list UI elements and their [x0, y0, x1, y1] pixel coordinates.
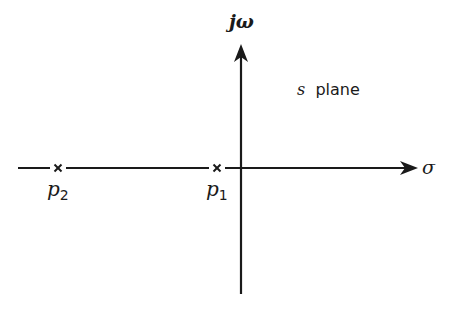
plane-label-variable: s	[297, 80, 305, 99]
s-plane-diagram	[0, 0, 453, 314]
pole-p1-label: p1	[206, 177, 228, 201]
pole-p2-name: p	[47, 177, 60, 201]
plane-label: s plane	[297, 80, 360, 99]
imaginary-axis-label: jω	[229, 10, 254, 32]
plane-label-word: plane	[315, 80, 359, 99]
pole-p1-name: p	[206, 177, 219, 201]
pole-p2-label: p2	[47, 177, 69, 201]
pole-p1-subscript: 1	[219, 187, 228, 203]
pole-p2-subscript: 2	[60, 187, 69, 203]
real-axis-label: σ	[422, 156, 435, 178]
